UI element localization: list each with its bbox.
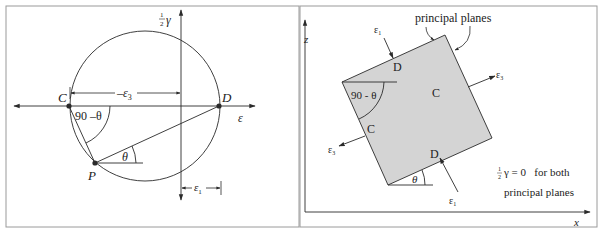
eps1-bottom-label: ε1 (449, 195, 456, 207)
angle-arc-theta (132, 146, 136, 163)
corner-angle-label: 90 - θ (351, 89, 376, 101)
angle-90-minus-theta-label: 90 –θ (75, 109, 102, 123)
dim-eps1-label: ε1 (194, 181, 202, 196)
face-left-label: C (367, 122, 375, 136)
svg-text:1: 1 (160, 11, 164, 19)
svg-text:γ: γ (166, 13, 171, 27)
point-p-marker (92, 160, 97, 165)
chord-p-d (95, 106, 219, 163)
shear-note: 1 2 γ = 0 for both principal planes (497, 166, 574, 198)
svg-text:2: 2 (498, 174, 501, 180)
bottom-angle-arc (422, 170, 425, 185)
note-line1: γ = 0 for both (503, 166, 570, 178)
note-line2: principal planes (504, 186, 574, 198)
z-axis-label: z (303, 33, 309, 45)
principal-planes-pointer-top (426, 27, 434, 40)
point-p-label: P (87, 168, 96, 183)
epsilon-axis-label: ε (238, 111, 243, 125)
bottom-angle-label: θ (412, 173, 418, 185)
half-gamma-axis-label: 1 2 γ (159, 11, 171, 28)
point-c-marker (66, 103, 71, 108)
eps3-right-label: ε3 (496, 69, 503, 81)
eps1-bottom-arrow (440, 158, 458, 192)
principal-planes-label: principal planes (415, 11, 492, 25)
stress-element (342, 35, 492, 185)
principal-planes-pointer-right (455, 26, 470, 50)
element-panel: z x 90 - θ θ D C C D ε1 ε1 ε3 ε3 princip… (300, 6, 597, 228)
x-axis-label: x (573, 216, 579, 228)
eps3-right-arrow (468, 76, 495, 87)
figure-canvas: –ε3 ε1 C D P 90 –θ θ ε 1 2 γ z x 90 - θ (0, 0, 603, 239)
point-c-label: C (58, 90, 67, 105)
mohr-circle-panel: –ε3 ε1 C D P 90 –θ θ ε 1 2 γ (6, 6, 299, 227)
angle-theta-label: θ (122, 150, 128, 164)
eps3-left-arrow (339, 136, 365, 146)
face-top-label: D (393, 60, 402, 74)
svg-text:1: 1 (498, 166, 501, 172)
svg-text:2: 2 (160, 20, 164, 28)
eps3-left-label: ε3 (328, 144, 335, 156)
left-panel-frame (6, 6, 299, 227)
point-d-label: D (221, 90, 232, 105)
eps1-top-arrow (384, 38, 393, 58)
face-right-label: C (432, 86, 440, 100)
point-d-marker (216, 103, 221, 108)
dim-neg-eps3-label: –ε3 (116, 86, 132, 102)
eps1-top-label: ε1 (374, 24, 381, 36)
face-bottom-label: D (430, 147, 439, 161)
